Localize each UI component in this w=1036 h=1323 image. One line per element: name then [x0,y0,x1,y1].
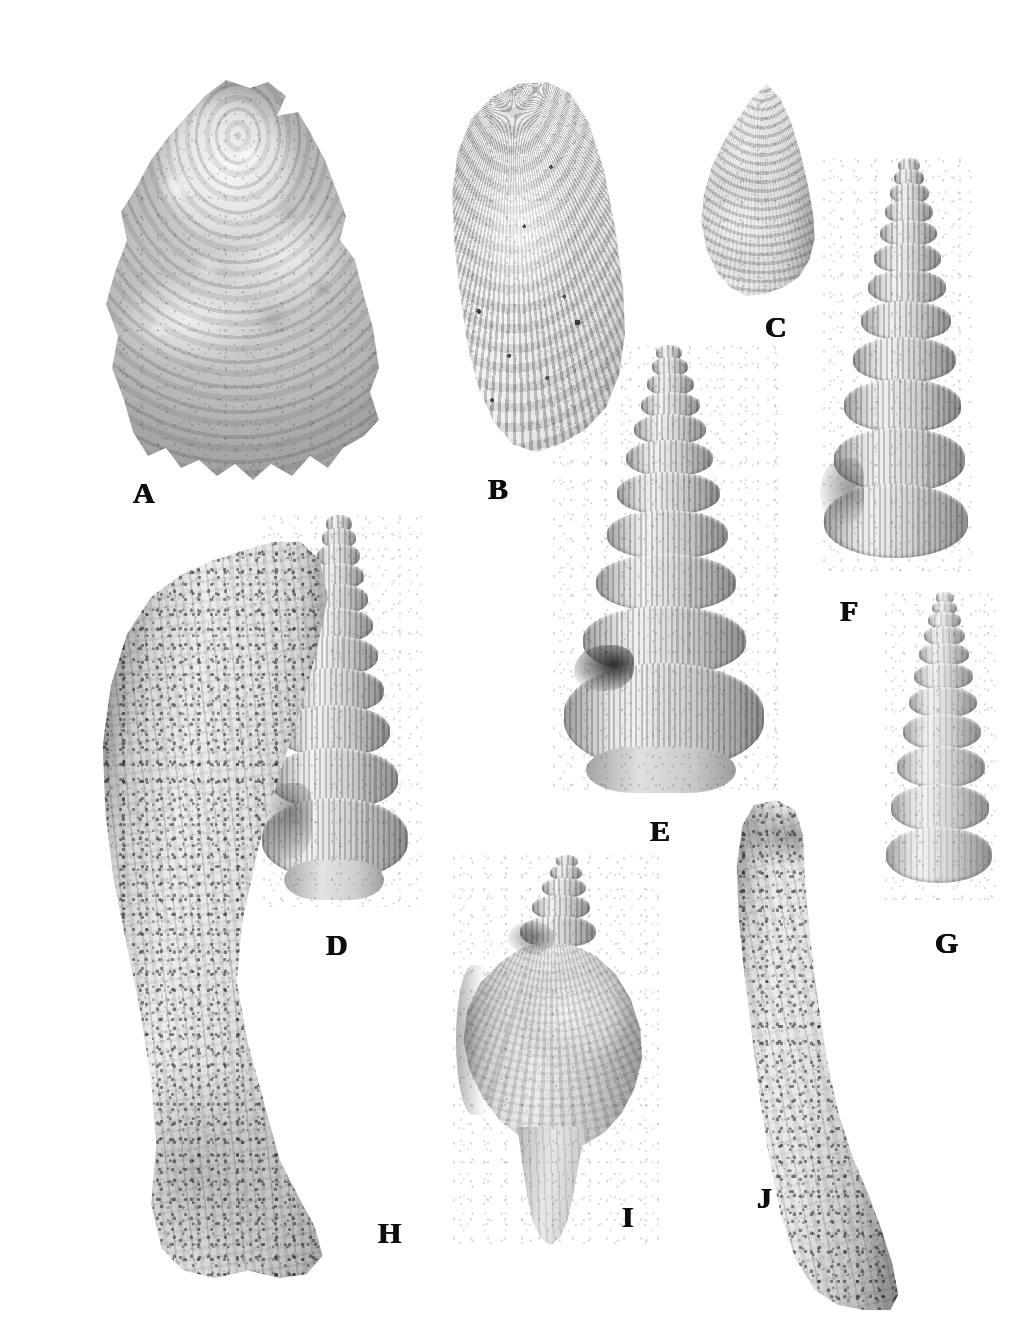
specimen-j-texture [712,800,902,1310]
specimen-i [452,855,664,1245]
specimen-f-whorl [853,337,956,383]
specimen-g-whorl [891,784,989,832]
specimen-i-siphonal-canal [504,1127,600,1245]
specimen-a-shading [88,80,388,480]
specimen-a-shell [88,80,388,480]
specimen-c [688,84,820,296]
specimen-h-tube [92,538,360,1278]
specimen-e-whorl [607,510,728,560]
panel-label-a: A [133,478,155,508]
specimen-e-shell [552,345,782,797]
specimen-f-shell [822,158,974,576]
specimen-h [92,538,360,1278]
panel-label-h: H [378,1218,402,1248]
specimen-f-whorl [844,379,961,433]
specimen-g-whorl [903,714,981,750]
panel-label-c: C [765,312,787,342]
specimen-e [552,345,782,797]
figure-plate: A B C D E F G H I J [0,0,1036,1323]
specimen-f-whorl [868,270,946,305]
specimen-j-tube [712,800,902,1310]
panel-label-b: B [488,474,509,504]
specimen-e-aperture-shadow [574,645,634,691]
specimen-e-whorl [596,554,736,612]
panel-label-i: I [622,1202,634,1232]
specimen-g-whorl [914,663,973,690]
panel-label-d: D [326,930,348,960]
specimen-i-shell [452,855,664,1245]
specimen-j [712,800,902,1310]
panel-label-f: F [840,596,859,626]
panel-label-e: E [650,816,671,846]
specimen-c-shading [688,84,820,296]
specimen-i-outer-lip-shadow [456,965,490,1115]
specimen-i-canal-striae [504,1127,600,1245]
specimen-f [822,158,974,576]
specimen-h-texture [92,538,360,1278]
specimen-a [88,80,388,480]
specimen-f-whorl [861,301,951,341]
specimen-f-aperture-shadow [820,458,864,524]
specimen-c-shell [688,84,820,296]
panel-label-g: G [935,928,959,958]
specimen-e-base [586,747,736,793]
panel-label-j: J [757,1183,773,1213]
specimen-e-whorl [617,472,720,515]
specimen-g-whorl [897,746,985,788]
specimen-i-spire-shadow [508,921,554,955]
